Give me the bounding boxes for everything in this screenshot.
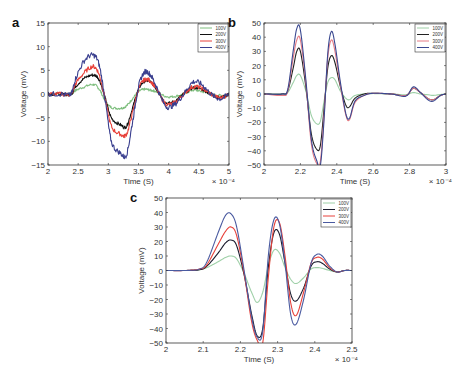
y-tick-label: −10 <box>149 281 163 290</box>
chart-panel-a: 22.533.544.55−15−10−5051015Time (S)Volta… <box>12 15 236 186</box>
y-tick-label: 10 <box>252 76 261 85</box>
x-tick-label: 2 <box>262 167 267 176</box>
y-tick-label: −50 <box>247 161 261 170</box>
y-tick-label: −10 <box>31 137 45 146</box>
legend-entry: 300V <box>215 39 226 44</box>
y-tick-label: 10 <box>36 43 45 52</box>
legend-entry: 300V <box>338 214 349 219</box>
y-tick-label: 0 <box>41 90 46 99</box>
legend-entry: 400V <box>338 220 349 225</box>
series-line-100V <box>264 74 446 124</box>
legend-entry: 300V <box>432 39 443 44</box>
y-tick-label: −30 <box>247 133 261 142</box>
x-tick-label: 4.5 <box>193 167 205 176</box>
y-tick-label: −50 <box>149 339 163 348</box>
y-tick-label: 20 <box>252 62 261 71</box>
y-tick-label: −20 <box>247 118 261 127</box>
y-tick-label: 50 <box>154 194 163 203</box>
x-axis-label: Time (S) <box>244 355 275 364</box>
x-tick-label: 5 <box>227 167 232 176</box>
y-tick-label: 20 <box>154 238 163 247</box>
legend: 100V200V300V400V <box>321 199 351 227</box>
series-line-300V <box>166 219 352 347</box>
x-tick-label: 4 <box>166 167 171 176</box>
x-tick-label: 2.2 <box>295 167 307 176</box>
y-tick-label: 15 <box>36 19 45 28</box>
y-axis-label: Voltage (mV) <box>235 71 244 118</box>
y-tick-label: 30 <box>252 47 261 56</box>
series-line-400V <box>166 213 352 341</box>
x-multiplier-label: × 10⁻⁴ <box>429 177 453 186</box>
y-tick-label: −40 <box>247 147 261 156</box>
x-tick-label: 2.8 <box>404 167 416 176</box>
y-axis-label: Voltage (mV) <box>137 247 146 294</box>
legend-entry: 200V <box>215 32 226 37</box>
y-tick-label: 5 <box>41 66 46 75</box>
series-group <box>48 53 229 159</box>
legend-entry: 100V <box>432 26 443 31</box>
x-axis-label: Time (S) <box>340 177 371 186</box>
chart-panel-c: 22.12.22.32.42.5−50−40−30−20−10010203040… <box>130 190 359 364</box>
x-tick-label: 2.6 <box>368 167 380 176</box>
x-tick-label: 3 <box>106 167 111 176</box>
chart-panel-b: 22.22.42.62.83−50−40−30−20−1001020304050… <box>228 15 453 186</box>
x-tick-label: 2.5 <box>73 167 85 176</box>
y-axis-label: Voltage (mV) <box>19 71 28 118</box>
x-tick-label: 2 <box>164 345 169 354</box>
y-tick-label: −20 <box>149 296 163 305</box>
legend: 100V200V300V400V <box>415 24 445 52</box>
y-tick-label: 10 <box>154 252 163 261</box>
series-group <box>166 213 352 348</box>
y-tick-label: 40 <box>252 33 261 42</box>
y-tick-label: −10 <box>247 104 261 113</box>
x-tick-label: 2.2 <box>235 345 247 354</box>
y-tick-label: −40 <box>149 325 163 334</box>
x-tick-label: 2.3 <box>272 345 284 354</box>
legend-entry: 100V <box>338 201 349 206</box>
panel-label: a <box>12 15 20 30</box>
series-line-400V <box>48 53 229 159</box>
figure-canvas: 22.533.544.55−15−10−5051015Time (S)Volta… <box>0 0 463 378</box>
y-tick-label: 50 <box>252 19 261 28</box>
y-tick-label: 0 <box>159 267 164 276</box>
y-tick-label: −15 <box>31 161 45 170</box>
series-line-200V <box>166 229 352 337</box>
legend-entry: 400V <box>432 45 443 50</box>
y-tick-label: 30 <box>154 223 163 232</box>
x-tick-label: 2.5 <box>346 345 358 354</box>
x-tick-label: 2.4 <box>309 345 321 354</box>
x-tick-label: 2 <box>46 167 51 176</box>
y-tick-label: 0 <box>257 90 262 99</box>
panel-label: c <box>130 190 137 205</box>
legend-entry: 400V <box>215 45 226 50</box>
x-tick-label: 3.5 <box>133 167 145 176</box>
legend-entry: 200V <box>432 32 443 37</box>
legend: 100V200V300V400V <box>198 24 228 52</box>
legend-entry: 100V <box>215 26 226 31</box>
legend-entry: 200V <box>338 207 349 212</box>
x-tick-label: 2.1 <box>198 345 210 354</box>
x-multiplier-label: × 10⁻⁴ <box>335 355 359 364</box>
x-multiplier-label: × 10⁻⁴ <box>212 177 236 186</box>
x-tick-label: 2.4 <box>331 167 343 176</box>
panel-label: b <box>228 15 236 30</box>
y-tick-label: −30 <box>149 310 163 319</box>
y-tick-label: 40 <box>154 209 163 218</box>
x-axis-label: Time (S) <box>123 177 154 186</box>
x-tick-label: 3 <box>444 167 449 176</box>
y-tick-label: −5 <box>36 114 46 123</box>
series-line-300V <box>48 65 229 138</box>
